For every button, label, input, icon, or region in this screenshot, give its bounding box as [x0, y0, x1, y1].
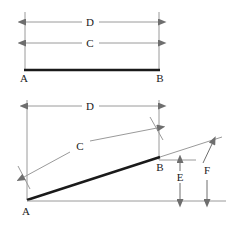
lower-dimension-label-e: E	[177, 171, 184, 183]
lower-dimension-line-f-upper	[203, 144, 212, 163]
technical-diagram: D C A B D C	[0, 0, 234, 227]
lower-vertex-label-b: B	[156, 161, 163, 173]
lower-dimension-line-c-left	[24, 152, 70, 177]
lower-slope-extension	[160, 137, 222, 157]
lower-panel: D C E F A B	[18, 100, 226, 217]
upper-dimension-label-c: C	[86, 37, 93, 49]
upper-vertex-label-a: A	[20, 72, 28, 84]
lower-vertex-label-a: A	[22, 205, 30, 217]
lower-dimension-label-d: D	[86, 100, 94, 112]
upper-dimension-label-d: D	[86, 16, 94, 28]
figure-container: D C A B D C	[0, 0, 234, 227]
lower-dimension-label-c: C	[76, 140, 83, 152]
upper-panel: D C A B	[20, 12, 164, 84]
lower-slope-witness-left	[18, 166, 30, 189]
lower-dimension-line-c-right	[90, 128, 157, 141]
lower-dimension-label-f: F	[204, 164, 210, 176]
lower-inclined-line-ab	[27, 157, 160, 200]
upper-vertex-label-b: B	[156, 72, 163, 84]
